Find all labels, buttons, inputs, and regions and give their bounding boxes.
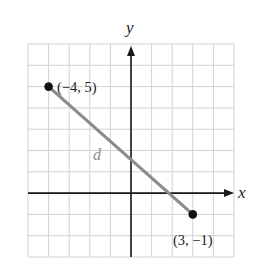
x-axis-label: x <box>237 183 246 202</box>
point-b <box>189 210 198 219</box>
point-a <box>44 82 53 91</box>
x-axis-arrow-icon <box>224 189 234 197</box>
axes <box>28 46 234 257</box>
point-a-label: (−4, 5) <box>57 79 97 96</box>
y-axis-arrow-icon <box>127 46 135 56</box>
segment-d-label: d <box>93 146 102 163</box>
y-axis-label: y <box>124 18 134 37</box>
coordinate-plane: x y (−4, 5) (3, −1) d <box>0 0 254 266</box>
point-b-label: (3, −1) <box>173 232 213 249</box>
